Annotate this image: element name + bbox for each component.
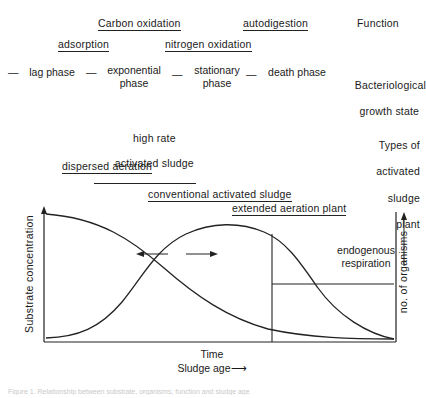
x-axis-arrow-icon: ⟶: [231, 362, 247, 374]
phase-stationary-phase-line2: phase: [203, 77, 232, 89]
phase-separator-1: —: [86, 66, 97, 78]
y-axis-left-arrow-icon: [41, 206, 47, 214]
phase-row: — lag phase — exponential phase — statio…: [8, 64, 338, 96]
y-axis-right-label: no. of organisms: [397, 197, 409, 347]
phase-death-phase-line1: death phase: [268, 66, 326, 78]
plant-type-high-rate-line1: high rate: [133, 132, 176, 144]
phase-death-phase: death phase: [260, 66, 334, 79]
phase-exponential-phase-line2: phase: [120, 77, 149, 89]
phase-lag-phase: lag phase: [20, 66, 84, 79]
x-axis-label-line1: Time: [201, 348, 224, 360]
function-item-adsorption: adsorption: [58, 38, 109, 52]
phase-exponential-phase-line1: exponential: [107, 64, 161, 76]
row-label-growth-line1: Bacteriological: [355, 79, 426, 91]
x-axis-label-line2: Sludge age: [177, 362, 230, 374]
function-item-carbon-oxidation: Carbon oxidation: [98, 17, 181, 31]
plant-type-extended-aeration-plant: extended aeration plant: [232, 202, 346, 216]
series-substrate-concentration: [46, 214, 394, 339]
function-item-autodigestion: autodigestion: [243, 17, 308, 31]
figure-caption-faint: Figure 1. Relationship between substrate…: [8, 388, 418, 395]
phase-stationary-phase-line1: stationary: [194, 64, 240, 76]
annotation-endogenous-line2: respiration: [341, 257, 390, 269]
row-label-types-line2: activated: [376, 165, 420, 177]
row-label-function: Function: [357, 17, 399, 30]
series-no-of-organisms: [46, 225, 394, 339]
phase-lag-phase-line1: lag phase: [29, 66, 75, 78]
marker-crossover-arrow-right-head-icon: [210, 251, 218, 257]
phase-exponential-phase: exponential phase: [98, 64, 170, 89]
row-label-types-line1: Types of: [379, 139, 420, 151]
phase-separator-3: —: [246, 68, 257, 80]
phase-separator-2: —: [172, 68, 183, 80]
function-item-nitrogen-oxidation: nitrogen oxidation: [165, 38, 252, 52]
x-axis-label: Time Sludge age⟶: [132, 348, 292, 375]
row-label-growth-line2: growth state: [360, 105, 420, 117]
y-axis-left-label: Substrate concentration: [23, 199, 35, 349]
row-label-bacteriological-growth-state: Bacteriological growth state: [336, 66, 424, 132]
marker-crossover-arrow-left-head-icon: [136, 251, 144, 257]
figure-root: Carbon oxidation autodigestion adsorptio…: [0, 0, 426, 398]
phase-separator-0: —: [8, 66, 19, 78]
phase-stationary-phase: stationary phase: [186, 64, 248, 89]
annotation-endogenous-line1: endogenous: [337, 244, 395, 256]
plant-type-dispersed-aeration: dispersed aeration: [62, 160, 152, 174]
growth-curve-chart: extended aeration plant: [0, 196, 426, 398]
